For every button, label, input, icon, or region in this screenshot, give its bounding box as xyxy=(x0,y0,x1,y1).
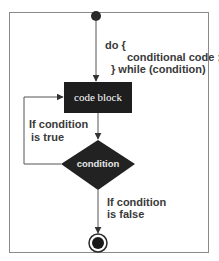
do-label-line3: } while (condition) xyxy=(111,63,206,75)
code-block-label: code block xyxy=(74,91,122,103)
false-label-line1: If condition xyxy=(107,196,167,208)
end-node xyxy=(89,234,107,252)
true-label-line1: If condition xyxy=(29,118,89,130)
true-label-line2: is true xyxy=(31,131,64,143)
condition-label: condition xyxy=(77,158,120,169)
false-label-line2: is false xyxy=(107,208,144,220)
flowchart: do { conditional code ; } while (conditi… xyxy=(0,0,219,261)
start-node xyxy=(91,11,101,21)
do-label-line1: do { xyxy=(105,39,126,51)
do-label-line2: conditional code ; xyxy=(127,51,219,63)
